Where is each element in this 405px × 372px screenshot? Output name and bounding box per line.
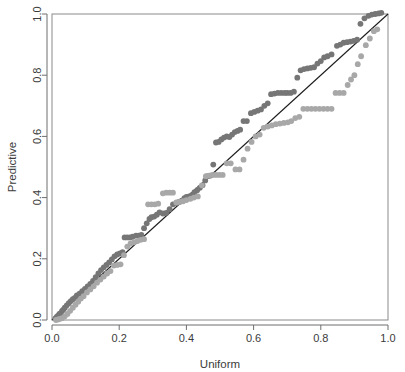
data-point xyxy=(228,160,234,166)
chart-figure: 0.00.20.40.60.81.0 0.00.20.40.60.81.0 Un… xyxy=(0,0,405,372)
data-point xyxy=(367,36,373,42)
data-point xyxy=(345,82,351,88)
data-point xyxy=(167,206,173,212)
data-point xyxy=(358,21,364,27)
x-tick-label: 0.8 xyxy=(313,332,328,344)
data-point xyxy=(141,236,147,242)
y-tick-label: 0.2 xyxy=(31,251,43,266)
y-tick-label: 0.4 xyxy=(31,190,43,205)
x-tick-label: 0.6 xyxy=(246,332,261,344)
data-points-group xyxy=(52,10,384,323)
data-point xyxy=(241,157,247,163)
y-axis: 0.00.20.40.60.81.0 xyxy=(31,6,47,327)
data-point xyxy=(195,193,201,199)
series-light-series xyxy=(53,26,380,323)
data-point xyxy=(358,53,364,59)
data-point xyxy=(291,89,297,95)
data-point xyxy=(294,75,300,81)
data-point xyxy=(220,172,226,178)
data-point xyxy=(363,42,369,48)
y-tick-label: 0.8 xyxy=(31,68,43,83)
data-point xyxy=(108,268,114,274)
data-point xyxy=(341,90,347,96)
data-point xyxy=(199,182,205,188)
data-point xyxy=(329,51,335,57)
data-point xyxy=(352,72,358,78)
data-point xyxy=(329,106,335,112)
data-point xyxy=(210,162,216,168)
data-point xyxy=(245,146,251,152)
data-point xyxy=(118,261,124,267)
data-point xyxy=(244,118,250,124)
x-axis: 0.00.20.40.60.81.0 xyxy=(44,325,395,344)
data-point xyxy=(237,167,243,173)
data-point xyxy=(249,139,255,145)
data-point xyxy=(237,127,243,133)
y-tick-label: 1.0 xyxy=(31,6,43,21)
data-point xyxy=(170,190,176,196)
x-axis-title: Uniform xyxy=(200,358,240,370)
data-point xyxy=(378,10,384,16)
data-point xyxy=(355,61,361,67)
data-point xyxy=(354,37,360,43)
x-tick-label: 1.0 xyxy=(380,332,395,344)
data-point xyxy=(296,114,302,120)
y-axis-title: Predictive xyxy=(6,142,18,193)
x-tick-label: 0.2 xyxy=(112,332,127,344)
data-point xyxy=(257,132,263,138)
y-tick-label: 0.6 xyxy=(31,129,43,144)
data-point xyxy=(141,225,147,231)
x-tick-label: 0.0 xyxy=(44,332,59,344)
y-tick-label: 0.0 xyxy=(31,312,43,327)
data-point xyxy=(121,252,127,258)
data-point xyxy=(374,26,380,32)
scatter-plot-svg: 0.00.20.40.60.81.0 0.00.20.40.60.81.0 Un… xyxy=(0,0,405,372)
data-point xyxy=(155,201,161,207)
x-tick-label: 0.4 xyxy=(179,332,194,344)
data-point xyxy=(265,100,271,106)
